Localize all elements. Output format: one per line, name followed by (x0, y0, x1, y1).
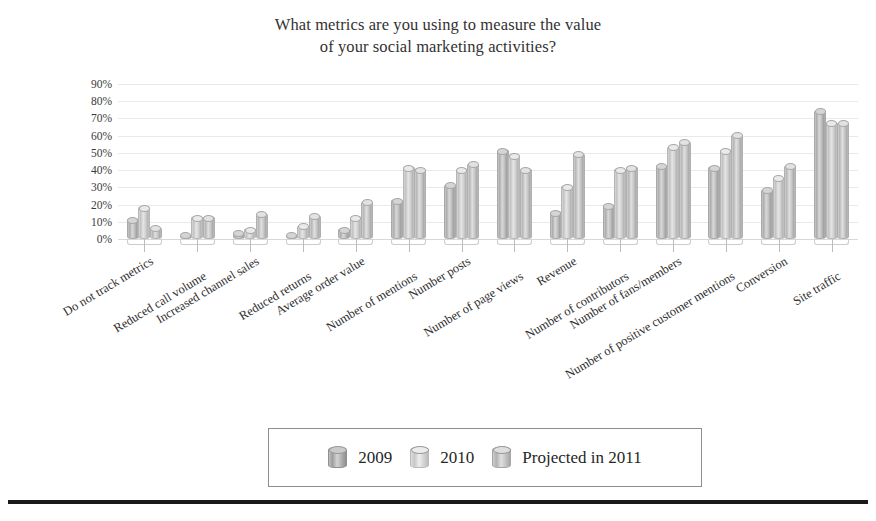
bar (561, 185, 573, 239)
legend-item[interactable]: 2009 (328, 447, 392, 468)
bar-cap (573, 151, 584, 158)
bar-group (127, 84, 160, 239)
bar-group (233, 84, 266, 239)
bar-cap (245, 227, 256, 234)
bar (614, 168, 626, 239)
chart-figure: What metrics are you using to measure th… (0, 0, 876, 521)
bar-cap (732, 132, 743, 139)
bar-group (814, 84, 847, 239)
bar (520, 168, 532, 239)
category-tick (726, 239, 727, 252)
y-axis-tick-label: 90% (66, 78, 112, 90)
bar-cap (826, 120, 837, 127)
gridline (118, 118, 858, 119)
y-axis-tick-label: 10% (66, 216, 112, 228)
category-tick (303, 239, 304, 252)
bar (297, 225, 309, 239)
bar-cap (192, 215, 203, 222)
bar-cap (256, 211, 267, 218)
bar (720, 149, 732, 239)
bar-cap (615, 167, 626, 174)
bar (784, 165, 796, 239)
bar-cap (603, 203, 614, 210)
bar-group (497, 84, 530, 239)
bar (256, 213, 268, 239)
category-tick (197, 239, 198, 252)
y-axis-tick-label: 60% (66, 130, 112, 142)
bar-cap (309, 213, 320, 220)
bar-cap (668, 144, 679, 151)
bar-cap (203, 215, 214, 222)
bar-cap (656, 163, 667, 170)
bar-group (444, 84, 477, 239)
legend-swatch-cap (493, 446, 511, 454)
bar (127, 218, 139, 239)
chart-legend: 20092010Projected in 2011 (268, 428, 702, 487)
legend-swatch-cap (411, 446, 429, 454)
bar (773, 177, 785, 239)
bar-cap (456, 167, 467, 174)
bar (814, 110, 826, 239)
bar-cap (709, 165, 720, 172)
bar-cap (415, 167, 426, 174)
legend-item[interactable]: Projected in 2011 (492, 447, 641, 468)
bar-group (656, 84, 689, 239)
bar-cap (762, 187, 773, 194)
gridline (118, 84, 858, 85)
gridline (118, 205, 858, 206)
bar-cap (720, 148, 731, 155)
category-tick (409, 239, 410, 252)
legend-label: 2009 (358, 448, 392, 468)
bar (403, 166, 415, 239)
bar-cap (392, 198, 403, 205)
category-label: Revenue (534, 254, 579, 289)
legend-item[interactable]: 2010 (410, 447, 474, 468)
bar (350, 216, 362, 239)
bar (550, 211, 562, 239)
bottom-divider (8, 500, 868, 504)
bar (138, 206, 150, 239)
bar (679, 141, 691, 239)
bar-cap (150, 225, 161, 232)
chart-title-line-2: of your social marketing activities? (0, 36, 876, 58)
category-tick (514, 239, 515, 252)
bar (708, 166, 720, 239)
bar-group (603, 84, 636, 239)
bar (837, 122, 849, 239)
bar-cap (339, 227, 350, 234)
bar-cap (815, 108, 826, 115)
bar (150, 227, 162, 239)
bar (233, 232, 245, 239)
bar (508, 154, 520, 239)
bar-cap (298, 223, 309, 230)
bar (444, 184, 456, 239)
bar-cap (362, 199, 373, 206)
bar-cap (139, 205, 150, 212)
chart-title-line-1: What metrics are you using to measure th… (0, 14, 876, 36)
bar (731, 134, 743, 239)
category-tick (356, 239, 357, 252)
bar-cap (233, 230, 244, 237)
bar-cap (286, 232, 297, 239)
bar-cap (838, 120, 849, 127)
gridline (118, 170, 858, 171)
bar (497, 149, 509, 239)
legend-swatch-icon (410, 447, 429, 468)
bar-cap (509, 153, 520, 160)
bar-cap (350, 215, 361, 222)
bar (573, 153, 585, 239)
category-tick (779, 239, 780, 252)
category-label: Conversion (733, 254, 790, 297)
legend-swatch-icon (328, 447, 347, 468)
gridline (118, 187, 858, 188)
bar (203, 216, 215, 239)
bar-cap (497, 148, 508, 155)
y-axis-tick-label: 0% (66, 233, 112, 245)
bar (456, 168, 468, 239)
bar (826, 122, 838, 239)
bar-group (761, 84, 794, 239)
y-axis-tick-label: 30% (66, 181, 112, 193)
bar-cap (180, 232, 191, 239)
bar-group (708, 84, 741, 239)
bar-cap (626, 165, 637, 172)
